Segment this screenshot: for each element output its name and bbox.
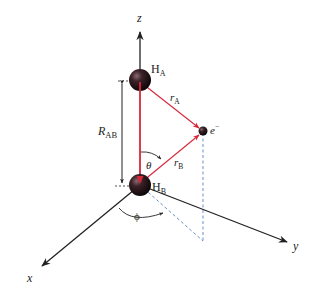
ra-label: rA (170, 91, 180, 106)
phi-arc (119, 208, 163, 217)
phi-label: ϕ (134, 210, 140, 222)
rb-label: rB (174, 156, 183, 171)
theta-label: θ (146, 159, 152, 171)
theta-arc (141, 152, 161, 159)
x-axis-label: x (26, 271, 33, 285)
electron (199, 127, 208, 136)
nucleus-hb-label: HB (152, 180, 166, 196)
nucleus-ha-label: HA (151, 62, 166, 78)
x-axis (42, 185, 140, 266)
electron-label: e− (210, 122, 219, 136)
h2-ion-coordinate-diagram: z x y RAB rA rB θ ϕ HA HB e− (0, 0, 316, 294)
y-axis-label: y (292, 239, 299, 253)
projection-line-xy (140, 185, 203, 241)
rb-vector (143, 135, 199, 181)
z-axis-label: z (136, 11, 142, 25)
